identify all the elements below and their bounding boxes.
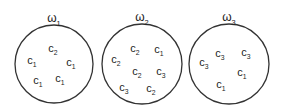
class-item: c2 [146,82,156,96]
cluster-1: ω1c2c1c1c1c1 [15,11,93,103]
class-item: c1 [216,78,226,92]
class-item: c1 [33,74,43,88]
class-item: c1 [154,43,164,57]
class-item: c1 [237,66,247,80]
class-item: c3 [156,65,166,79]
class-item: c1 [27,54,37,68]
class-item: c3 [199,56,209,70]
class-item: c2 [130,42,140,56]
class-item: c2 [132,65,142,79]
cluster-2: ω2c2c1c2c2c3c3c2 [102,10,182,104]
class-item: c3 [119,81,129,95]
class-item: c2 [48,42,58,56]
cluster-diagram: ω1c2c1c1c1c1ω2c2c1c2c2c3c3c2ω3c3c3c3c1c1 [0,0,283,111]
class-item: c1 [55,72,65,86]
class-item: c1 [66,56,76,70]
class-item: c3 [215,47,225,61]
cluster-3: ω3c3c3c3c1c1 [189,10,269,104]
diagram-svg: ω1c2c1c1c1c1ω2c2c1c2c2c3c3c2ω3c3c3c3c1c1 [0,0,283,111]
class-item: c3 [241,46,251,60]
class-item: c2 [111,53,121,67]
